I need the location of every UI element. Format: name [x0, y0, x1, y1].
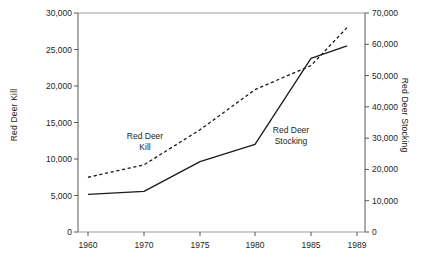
chart-figure: Red Deer Kill Red Deer Stocking 30,000 2… — [0, 0, 423, 266]
axis-lines — [78, 13, 365, 232]
plot-area — [0, 0, 423, 266]
series-line-red-deer-stocking — [88, 46, 347, 195]
left-axis-ticks — [74, 13, 78, 232]
x-axis-ticks — [88, 232, 357, 236]
series-line-red-deer-kill — [88, 28, 347, 178]
right-axis-ticks — [365, 13, 369, 232]
